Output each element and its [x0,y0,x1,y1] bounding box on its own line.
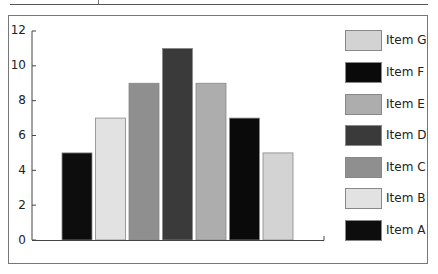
legend-item-g: Item G [345,30,430,52]
y-tick-label-0: 0 [6,234,26,246]
legend-item-b: Item B [345,188,430,210]
legend-item-f: Item F [345,62,430,84]
y-tick-label-8: 8 [6,94,26,106]
bar-item-f [230,118,260,240]
legend-swatch-g [345,30,382,51]
bar-item-g [263,153,293,240]
legend-label-e: Item E [386,97,425,111]
legend-item-d: Item D [345,125,430,147]
legend-item-e: Item E [345,94,430,116]
legend-label-c: Item C [386,160,426,174]
bar-item-d [163,48,193,240]
legend-swatch-e [345,94,382,115]
bar-item-c [129,83,159,240]
bar-item-a [62,153,92,240]
legend-swatch-f [345,62,382,83]
bars [62,48,293,240]
legend-swatch-b [345,188,382,209]
legend-label-d: Item D [386,128,426,142]
legend-swatch-c [345,157,382,178]
legend-label-a: Item A [386,223,425,237]
bar-item-e [196,83,226,240]
legend-swatch-a [345,220,382,241]
legend-swatch-d [345,125,382,146]
legend-label-b: Item B [386,191,425,205]
legend-label-g: Item G [386,33,426,47]
legend-item-a: Item A [345,220,430,242]
legend-label-f: Item F [386,65,424,79]
bar-item-b [96,118,126,240]
y-tick-label-2: 2 [6,199,26,211]
y-axis [32,31,36,240]
y-tick-label-12: 12 [6,24,26,36]
y-tick-label-4: 4 [6,164,26,176]
y-tick-label-10: 10 [6,59,26,71]
legend-item-c: Item C [345,157,430,179]
y-tick-label-6: 6 [6,129,26,141]
